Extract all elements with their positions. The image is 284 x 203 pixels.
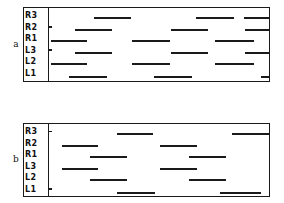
panel-a-caption: a bbox=[8, 40, 24, 49]
panel-a-track-l1 bbox=[49, 68, 269, 79]
panel-a-track-r1 bbox=[49, 33, 269, 44]
panel-b-caption: b bbox=[8, 155, 24, 164]
stance-segment bbox=[261, 76, 269, 78]
stance-segment bbox=[132, 63, 171, 65]
panel-a: a R3R2R1L3L2L1 bbox=[0, 7, 284, 82]
panel-b-row-label-r1: R1 bbox=[25, 149, 48, 160]
panel-a-track-r3 bbox=[49, 10, 269, 21]
stance-segment bbox=[215, 40, 254, 42]
panel-b-track-l2 bbox=[49, 172, 269, 183]
panel-a-track-l3 bbox=[49, 45, 269, 56]
panel-b-row-tick-r3 bbox=[48, 131, 52, 133]
stance-segment bbox=[69, 76, 108, 78]
stance-segment bbox=[215, 63, 254, 65]
stance-segment bbox=[196, 17, 233, 19]
panel-a-row-tick-l3 bbox=[48, 49, 52, 51]
panel-a-row-label-r2: R2 bbox=[25, 22, 48, 33]
gait-diagram-figure: a R3R2R1L3L2L1 b R3R2R1L3L2L1 bbox=[0, 0, 284, 203]
stance-segment bbox=[117, 192, 154, 194]
panel-b-track-l1 bbox=[49, 184, 269, 195]
panel-a-box: R3R2R1L3L2L1 bbox=[23, 7, 270, 82]
stance-segment bbox=[171, 29, 208, 31]
panel-b-track-l3 bbox=[49, 161, 269, 172]
panel-b-box: R3R2R1L3L2L1 bbox=[23, 123, 270, 197]
stance-segment bbox=[245, 52, 269, 54]
stance-segment bbox=[189, 156, 226, 158]
stance-segment bbox=[154, 76, 193, 78]
panel-b: b R3R2R1L3L2L1 bbox=[0, 123, 284, 197]
stance-segment bbox=[189, 179, 226, 181]
panel-a-row-tick-r2 bbox=[48, 26, 52, 28]
panel-a-row-label-l1: L1 bbox=[25, 68, 48, 79]
stance-segment bbox=[220, 192, 262, 194]
panel-b-row-label-r2: R2 bbox=[25, 138, 48, 149]
panel-b-row-label-l3: L3 bbox=[25, 161, 48, 172]
stance-segment bbox=[94, 17, 131, 19]
stance-segment bbox=[117, 133, 153, 135]
panel-a-track-l2 bbox=[49, 56, 269, 67]
stance-segment bbox=[160, 145, 197, 147]
panel-b-track-r1 bbox=[49, 149, 269, 160]
panel-a-row-label-l2: L2 bbox=[25, 56, 48, 67]
stance-segment bbox=[51, 40, 87, 42]
stance-segment bbox=[75, 29, 111, 31]
panel-b-track-r2 bbox=[49, 138, 269, 149]
stance-segment bbox=[132, 40, 171, 42]
panel-a-plot-area bbox=[49, 8, 269, 81]
stance-segment bbox=[90, 179, 127, 181]
panel-b-row-tick-l1 bbox=[48, 188, 52, 190]
stance-segment bbox=[51, 63, 87, 65]
panel-a-row-label-r1: R1 bbox=[25, 33, 48, 44]
stance-segment bbox=[232, 133, 269, 135]
panel-a-track-r2 bbox=[49, 22, 269, 33]
stance-segment bbox=[62, 145, 98, 147]
stance-segment bbox=[244, 17, 269, 19]
stance-segment bbox=[62, 168, 98, 170]
panel-b-row-label-l1: L1 bbox=[25, 184, 48, 195]
stance-segment bbox=[90, 156, 127, 158]
stance-segment bbox=[160, 168, 197, 170]
panel-b-plot-area bbox=[49, 124, 269, 196]
stance-segment bbox=[245, 29, 269, 31]
panel-b-track-r3 bbox=[49, 126, 269, 137]
panel-a-row-label-l3: L3 bbox=[25, 45, 48, 56]
stance-segment bbox=[171, 52, 208, 54]
panel-b-row-label-r3: R3 bbox=[25, 126, 48, 137]
panel-a-row-label-r3: R3 bbox=[25, 10, 48, 21]
panel-b-row-label-l2: L2 bbox=[25, 172, 48, 183]
stance-segment bbox=[75, 52, 111, 54]
